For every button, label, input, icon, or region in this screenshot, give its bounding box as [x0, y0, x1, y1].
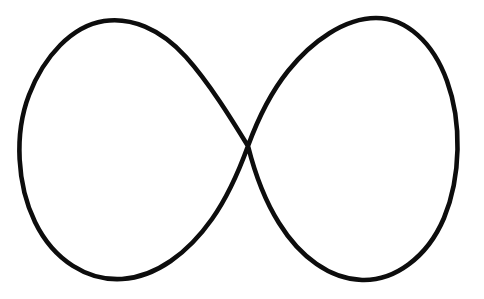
canvas-background	[0, 0, 484, 299]
drawing-canvas	[0, 0, 484, 299]
figure-eight-illustration	[0, 0, 484, 299]
